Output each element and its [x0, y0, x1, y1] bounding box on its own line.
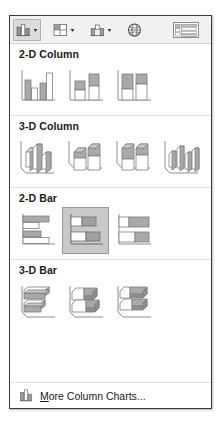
pivot-table-icon	[172, 21, 200, 39]
chart-type-100-stacked-bar[interactable]	[110, 207, 157, 254]
section-title-3d-column: 3-D Column	[10, 116, 211, 135]
section-title-2d-bar: 2-D Bar	[10, 188, 211, 207]
thumb-row-2d-bar	[10, 207, 211, 259]
accelerator-key: M	[40, 390, 49, 402]
toolbar-spacer	[162, 29, 169, 30]
chart-type-stacked-column[interactable]	[62, 63, 109, 110]
chevron-down-icon[interactable]	[69, 22, 76, 38]
thumb-row-2d-column	[10, 63, 211, 115]
column-chart-icon	[19, 388, 34, 403]
more-column-charts-text: ore Column Charts...	[49, 390, 146, 402]
toolbar-spacer	[42, 29, 49, 30]
chart-type-3d-100-stacked-bar[interactable]	[110, 279, 157, 326]
section-3d-bar: 3-D Bar	[10, 260, 211, 331]
thumb-row-3d-column	[10, 135, 211, 187]
insert-waterfall-chart-button[interactable]	[87, 19, 115, 41]
chart-gallery-panel: 2-D Column	[9, 15, 212, 409]
chart-type-3d-stacked-column[interactable]	[62, 135, 109, 182]
globe-map-icon	[126, 22, 143, 38]
waterfall-chart-icon	[89, 22, 106, 38]
toolbar-spacer	[116, 29, 123, 30]
chart-type-3d-clustered-column[interactable]	[14, 135, 61, 182]
section-title-2d-column: 2-D Column	[10, 44, 211, 63]
toolbar-spacer	[146, 29, 153, 30]
insert-hierarchy-chart-button[interactable]	[50, 19, 78, 41]
chart-type-stacked-bar[interactable]	[62, 207, 109, 254]
screen: 2-D Column	[0, 0, 223, 424]
chevron-down-icon[interactable]	[32, 22, 39, 38]
insert-pivotchart-button[interactable]	[170, 19, 202, 41]
thumb-row-3d-bar	[10, 279, 211, 331]
chart-type-3d-stacked-bar[interactable]	[62, 279, 109, 326]
more-column-charts-item[interactable]: More Column Charts...	[10, 382, 211, 408]
bar-chart-icon	[52, 22, 69, 38]
insert-map-chart-button[interactable]	[124, 19, 145, 41]
insert-column-bar-chart-button[interactable]	[13, 19, 41, 41]
section-2d-bar: 2-D Bar	[10, 188, 211, 260]
section-title-3d-bar: 3-D Bar	[10, 260, 211, 279]
toolbar-spacer	[154, 29, 161, 30]
chart-type-3d-column[interactable]	[158, 135, 205, 182]
chart-type-100-stacked-column[interactable]	[110, 63, 157, 110]
chart-toolbar	[10, 16, 211, 44]
chart-type-clustered-bar[interactable]	[14, 207, 61, 254]
chart-type-3d-clustered-bar[interactable]	[14, 279, 61, 326]
more-column-charts-label: More Column Charts...	[40, 390, 146, 402]
chevron-down-icon[interactable]	[106, 22, 113, 38]
section-2d-column: 2-D Column	[10, 44, 211, 116]
chart-gallery-list: 2-D Column	[10, 44, 211, 382]
section-3d-column: 3-D Column	[10, 116, 211, 188]
chart-type-clustered-column[interactable]	[14, 63, 61, 110]
column-chart-icon	[15, 22, 32, 38]
toolbar-spacer	[79, 29, 86, 30]
chart-type-3d-100-stacked-column[interactable]	[110, 135, 157, 182]
